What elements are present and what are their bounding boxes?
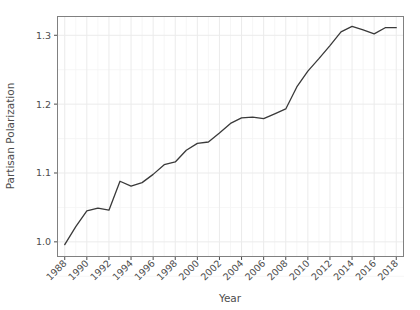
y-tick-label: 1.0 (36, 236, 51, 247)
x-axis-title: Year (218, 292, 242, 304)
y-tick-label: 1.2 (36, 99, 51, 110)
y-tick-label: 1.1 (36, 167, 51, 178)
y-axis-title: Partisan Polarization (4, 83, 16, 190)
y-tick-label: 1.3 (36, 30, 51, 41)
chart-figure: 1.01.11.21.3 198819901992199419961998200… (0, 0, 420, 310)
partisan-polarization-line-chart: 1.01.11.21.3 198819901992199419961998200… (0, 0, 420, 310)
